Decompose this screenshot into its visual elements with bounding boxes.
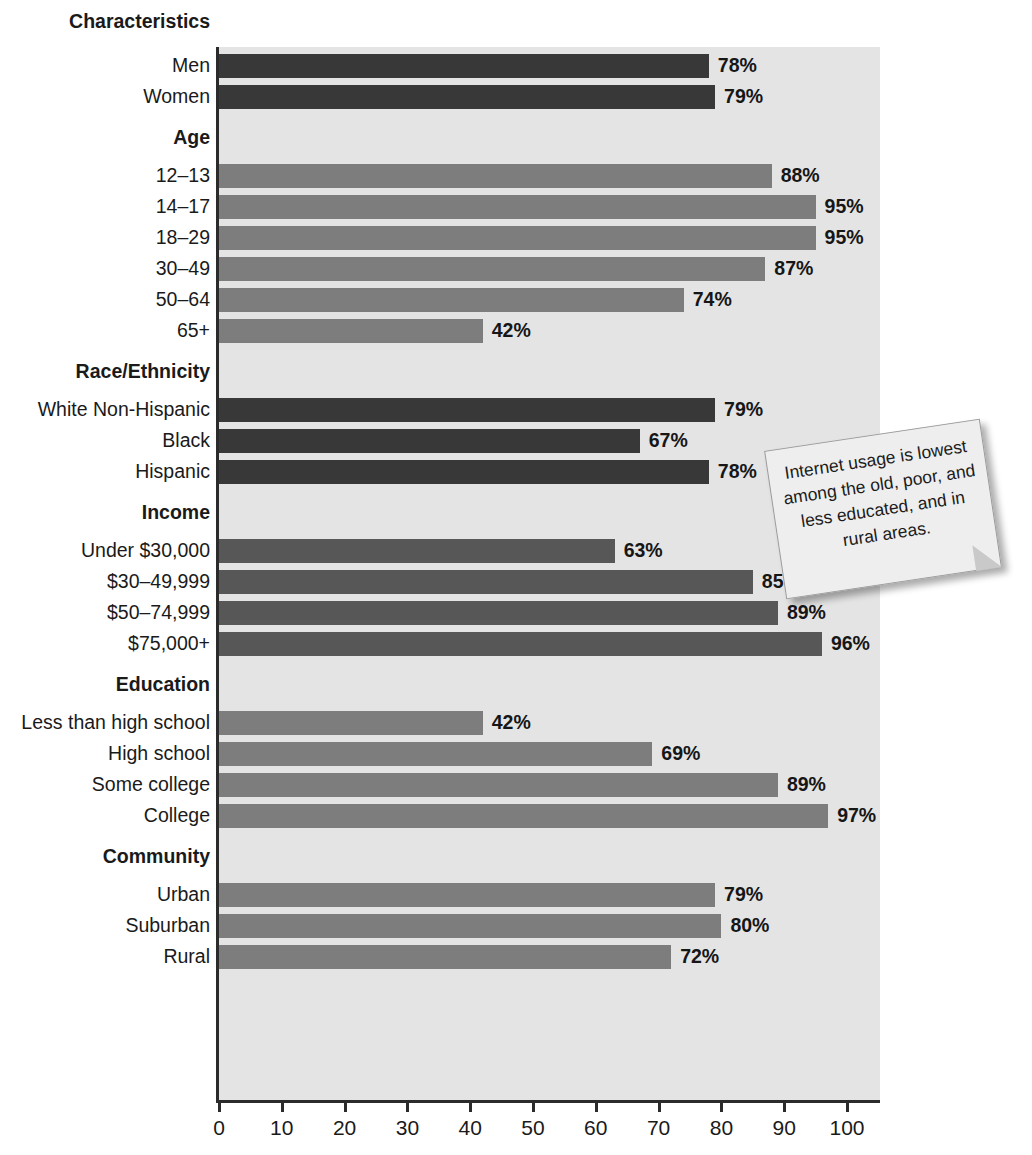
- x-tick-label: 30: [377, 1114, 437, 1142]
- x-tick-label: 20: [315, 1114, 375, 1142]
- internet-usage-bar-chart: CharacteristicsMen78%Women79%Age12–1388%…: [0, 0, 1032, 1155]
- bar-category-label: College: [0, 800, 210, 831]
- bar: [219, 945, 671, 969]
- bar: [219, 319, 483, 343]
- bar-row: Women79%: [0, 81, 1032, 112]
- x-tick: [344, 1100, 347, 1112]
- x-tick: [783, 1100, 786, 1112]
- bar-row: White Non-Hispanic79%: [0, 394, 1032, 425]
- group-heading-label: Community: [0, 841, 210, 872]
- bar-value-label: 63%: [624, 535, 663, 566]
- bar: [219, 226, 816, 250]
- note-text: Internet usage is lowest among the old, …: [777, 433, 986, 561]
- x-tick: [532, 1100, 535, 1112]
- x-tick: [846, 1100, 849, 1112]
- bar-row: Some college89%: [0, 769, 1032, 800]
- bar: [219, 288, 684, 312]
- bar-category-label: $30–49,999: [0, 566, 210, 597]
- bar: [219, 257, 765, 281]
- bar: [219, 601, 778, 625]
- x-tick-label: 40: [440, 1114, 500, 1142]
- bar: [219, 804, 828, 828]
- bar-category-label: Hispanic: [0, 456, 210, 487]
- bar: [219, 914, 721, 938]
- bar-value-label: 78%: [718, 50, 757, 81]
- group-heading-education: Education: [0, 669, 1032, 700]
- bar-category-label: Men: [0, 50, 210, 81]
- bar: [219, 632, 822, 656]
- bar-row: Rural72%: [0, 941, 1032, 972]
- group-heading-label: Race/Ethnicity: [0, 356, 210, 387]
- x-tick-label: 50: [503, 1114, 563, 1142]
- bar-value-label: 69%: [661, 738, 700, 769]
- bar-row: 65+42%: [0, 315, 1032, 346]
- bar: [219, 195, 816, 219]
- bar-category-label: Some college: [0, 769, 210, 800]
- bar-row: Suburban80%: [0, 910, 1032, 941]
- bar-row: 14–1795%: [0, 191, 1032, 222]
- bar-value-label: 67%: [649, 425, 688, 456]
- bar-category-label: $75,000+: [0, 628, 210, 659]
- bar-category-label: Suburban: [0, 910, 210, 941]
- bar: [219, 460, 709, 484]
- x-tick-label: 60: [566, 1114, 626, 1142]
- group-heading-community: Community: [0, 841, 1032, 872]
- x-tick-label: 70: [629, 1114, 689, 1142]
- bar-row: 30–4987%: [0, 253, 1032, 284]
- bar-row: 12–1388%: [0, 160, 1032, 191]
- bar: [219, 85, 715, 109]
- bar-category-label: 12–13: [0, 160, 210, 191]
- bar-row: 50–6474%: [0, 284, 1032, 315]
- bar-value-label: 89%: [787, 769, 826, 800]
- x-tick: [595, 1100, 598, 1112]
- x-tick-label: 90: [754, 1114, 814, 1142]
- bar-value-label: 42%: [492, 315, 531, 346]
- x-tick: [218, 1100, 221, 1112]
- x-tick: [658, 1100, 661, 1112]
- bar-category-label: $50–74,999: [0, 597, 210, 628]
- x-tick: [469, 1100, 472, 1112]
- bar-row: High school69%: [0, 738, 1032, 769]
- bar: [219, 773, 778, 797]
- group-heading-race-ethnicity: Race/Ethnicity: [0, 356, 1032, 387]
- bar-row: Less than high school42%: [0, 707, 1032, 738]
- annotation-note: Internet usage is lowest among the old, …: [774, 434, 1006, 624]
- bar-value-label: 74%: [693, 284, 732, 315]
- bar-value-label: 95%: [825, 222, 864, 253]
- bar-category-label: White Non-Hispanic: [0, 394, 210, 425]
- bar: [219, 429, 640, 453]
- bar-row: $75,000+96%: [0, 628, 1032, 659]
- bar-value-label: 72%: [680, 941, 719, 972]
- bar-value-label: 79%: [724, 81, 763, 112]
- note-card: Internet usage is lowest among the old, …: [764, 419, 1002, 600]
- bar: [219, 164, 772, 188]
- bar-category-label: 65+: [0, 315, 210, 346]
- bar-value-label: 78%: [718, 456, 757, 487]
- bar: [219, 54, 709, 78]
- bar-category-label: Urban: [0, 879, 210, 910]
- x-axis-line: [216, 1100, 880, 1103]
- bar-value-label: 95%: [825, 191, 864, 222]
- bar: [219, 883, 715, 907]
- bar-category-label: Black: [0, 425, 210, 456]
- bar: [219, 711, 483, 735]
- x-tick: [720, 1100, 723, 1112]
- bar-row: Urban79%: [0, 879, 1032, 910]
- bar-value-label: 88%: [781, 160, 820, 191]
- note-fold-corner: [972, 541, 1002, 571]
- group-heading-label: Education: [0, 669, 210, 700]
- bar-category-label: High school: [0, 738, 210, 769]
- bar-value-label: 87%: [774, 253, 813, 284]
- group-heading-label: Characteristics: [0, 6, 210, 37]
- bar-category-label: Rural: [0, 941, 210, 972]
- bar-category-label: 30–49: [0, 253, 210, 284]
- x-tick-label: 80: [691, 1114, 751, 1142]
- bar-row: Men78%: [0, 50, 1032, 81]
- bar-value-label: 97%: [837, 800, 876, 831]
- x-tick-label: 0: [189, 1114, 249, 1142]
- bar-value-label: 80%: [730, 910, 769, 941]
- bar-row: College97%: [0, 800, 1032, 831]
- bar: [219, 742, 652, 766]
- bar-value-label: 96%: [831, 628, 870, 659]
- bar-category-label: 18–29: [0, 222, 210, 253]
